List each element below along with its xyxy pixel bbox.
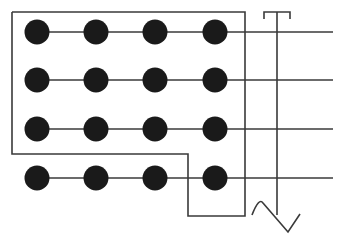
dot-r3-c4 [203, 117, 228, 142]
sine-wave-icon [252, 202, 300, 233]
dot-r1-c2 [84, 20, 109, 45]
dot-r4-c2 [84, 166, 109, 191]
dot-r2-c1 [25, 68, 50, 93]
horizontal-lines [37, 32, 333, 178]
dot-r1-c3 [143, 20, 168, 45]
atom-grid-diagram [0, 0, 347, 245]
dot-r1-c1 [25, 20, 50, 45]
dot-r4-c4 [203, 166, 228, 191]
dot-r3-c3 [143, 117, 168, 142]
dot-r2-c3 [143, 68, 168, 93]
dot-r2-c4 [203, 68, 228, 93]
dot-r1-c4 [203, 20, 228, 45]
dot-r4-c1 [25, 166, 50, 191]
dot-r2-c2 [84, 68, 109, 93]
dot-r4-c3 [143, 166, 168, 191]
t-terminal-probe [264, 12, 290, 215]
dot-grid [25, 20, 228, 191]
dot-r3-c1 [25, 117, 50, 142]
dot-r3-c2 [84, 117, 109, 142]
t-terminal-icon [264, 12, 290, 215]
